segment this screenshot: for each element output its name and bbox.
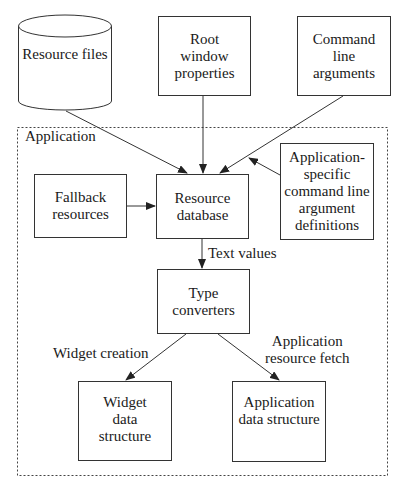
edge-label-text-values: Text values (208, 245, 277, 262)
node-label: Application- (284, 149, 369, 166)
node-label: files (82, 46, 108, 62)
node-label: data (99, 411, 151, 428)
node-app-specific-definitions: Application- specific command line argum… (280, 143, 374, 240)
node-label: Command (313, 31, 376, 48)
node-label: data structure (238, 411, 319, 428)
node-label: Widget (99, 394, 151, 411)
node-label: Root (175, 31, 235, 48)
node-label: Resource (22, 46, 78, 62)
node-label: Application (238, 394, 319, 411)
node-label: definitions (284, 217, 369, 234)
node-label: structure (99, 428, 151, 445)
node-widget-data-structure: Widget data structure (78, 381, 172, 461)
node-resource-files: Resource files (18, 46, 112, 63)
node-label: properties (175, 65, 235, 82)
node-root-window: Root window properties (158, 16, 251, 96)
container-label: Application (25, 128, 96, 145)
node-fallback-resources: Fallback resources (34, 174, 127, 238)
edge-label-line: resource fetch (265, 350, 350, 367)
node-label: argument (284, 200, 369, 217)
node-label: Fallback (52, 189, 109, 206)
edge-label-widget-creation: Widget creation (53, 345, 149, 362)
node-label: database (175, 207, 231, 224)
node-command-line: Command line arguments (297, 16, 391, 96)
node-label: arguments (313, 65, 376, 82)
node-label: specific (284, 166, 369, 183)
node-label: command line (284, 183, 369, 200)
node-resource-database: Resource database (156, 174, 249, 239)
edge-label-app-resource-fetch: Application resource fetch (265, 333, 350, 367)
node-label: line (313, 48, 376, 65)
node-label: Resource (175, 190, 231, 207)
node-label: Type (172, 285, 234, 302)
node-label: window (175, 48, 235, 65)
node-label: resources (52, 206, 109, 223)
node-application-data-structure: Application data structure (232, 381, 326, 462)
edge-label-line: Application (265, 333, 350, 350)
node-label: converters (172, 302, 234, 319)
node-type-converters: Type converters (157, 269, 250, 334)
